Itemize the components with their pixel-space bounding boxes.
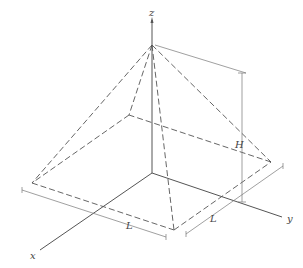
length-front-label: L xyxy=(125,220,133,231)
edge-apex-left xyxy=(32,45,152,183)
length-dimension-front xyxy=(22,187,166,240)
axes xyxy=(40,20,282,250)
pyramid-diagram: z x y H L L xyxy=(0,0,303,268)
length-side-label: L xyxy=(209,213,217,224)
x-axis xyxy=(40,173,152,250)
base-edge-right-back xyxy=(129,115,271,162)
height-label: H xyxy=(234,139,244,150)
length-dimension-side xyxy=(186,163,283,237)
base-edge-front-right xyxy=(174,162,271,230)
z-axis-label: z xyxy=(148,7,155,18)
length-side-line xyxy=(186,166,283,234)
edge-apex-back xyxy=(129,45,152,115)
y-axis-label: y xyxy=(286,213,293,224)
base-edge-back-left xyxy=(32,115,129,183)
edge-apex-front xyxy=(152,45,174,230)
length-front-line xyxy=(22,190,166,237)
x-axis-label: x xyxy=(30,250,36,261)
height-extension-top xyxy=(155,45,246,73)
